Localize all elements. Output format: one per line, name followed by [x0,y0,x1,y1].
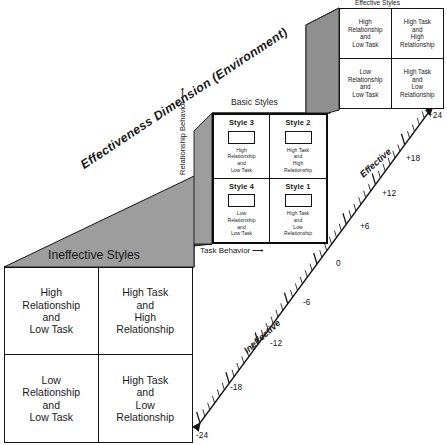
cell-line: High [134,311,156,323]
cell-line: High [40,286,62,298]
ineffective-styles-caption: Ineffective Styles [48,248,140,262]
cell-line: Relationship [284,167,312,174]
cell-line: Relationship [22,386,80,398]
cell-line: High Task [403,18,431,25]
cell-line: and [227,160,255,167]
cell-line: Low [411,83,423,90]
style-swatch [228,131,255,144]
basic-cell-style1: Style 1 High Task and Low Relationship [270,179,326,243]
cell-line: High Task [284,210,312,217]
cell-line: Low Task [29,411,73,423]
cell-line: and [360,83,371,90]
basic-styles-caption: Basic Styles [231,97,278,107]
axis-tick-label: -6 [303,297,310,307]
cell-line: Low [227,210,255,217]
axis-minor-tick [208,403,210,410]
axis-minor-tick [398,144,400,151]
task-behavior-label: Task Behavior ⟶ [200,246,263,255]
cell-line: High [411,33,424,40]
axis-tick-label: +24 [428,110,442,120]
axis-major-tick [197,412,200,423]
cell-line: and [360,33,371,40]
axis-minor-tick [325,244,327,251]
axis-minor-tick [217,390,219,397]
ineffective-cell-style2: High Task and High Relationship [99,268,193,355]
axis-minor-tick [242,356,244,363]
cell-line: High [284,160,312,167]
cell-line: Relationship [400,41,435,48]
relationship-behavior-arrow-icon: ⟶ [178,88,187,99]
axis-minor-tick [349,211,351,218]
axis-minor-tick [281,303,283,310]
style-title: Style 2 [285,119,310,128]
cell-line: and [284,217,312,224]
axis-minor-tick [334,231,336,238]
style-desc: High Relationship and Low Task [227,147,255,174]
cell-line: Low [42,374,61,386]
axis-tick-label: +18 [406,153,420,163]
effective-cell-style2: High Task and High Relationship [392,9,444,59]
cell-line: High Task [403,68,431,75]
relationship-behavior-text: Relationship Behavior [178,101,187,175]
cell-line: High Task [122,286,168,298]
cell-line: Relationship [284,230,312,237]
axis-minor-tick [237,363,239,370]
style-title: Style 4 [229,183,254,192]
cell-line: Relationship [348,26,383,33]
cell-line: High Task [284,147,312,154]
style-desc: High Task and Low Relationship [284,210,312,237]
cell-line: and [136,386,154,398]
axis-minor-tick [383,164,385,171]
effective-styles-caption: Effective Styles [355,0,400,6]
axis-major-tick [372,174,375,185]
axis-minor-tick [408,131,410,138]
axis-minor-tick [310,264,312,271]
axis-minor-tick [412,125,414,132]
cell-line: High [359,18,372,25]
cell-line: and [412,76,423,83]
basic-styles-grid: Style 3 High Relationship and Low Task S… [212,113,328,244]
axis-minor-tick [330,237,332,244]
style-desc: Low Relationship and Low Task [227,210,255,237]
axis-tick-label: +6 [360,221,369,231]
cell-line: Low [136,399,155,411]
diagram-canvas: Effective Styles High Relationship and L… [0,0,447,445]
cell-line: Relationship [116,411,174,423]
cell-line: Low Task [29,323,73,335]
axis-minor-tick [364,191,366,198]
cell-line: Low [284,224,312,231]
basic-to-effective-connector [306,8,339,113]
axis-minor-tick [291,290,293,297]
cell-line: and [42,311,60,323]
cell-line: High Task [122,374,168,386]
cell-line: and [412,26,423,33]
cell-line: Low Task [227,230,255,237]
axis-minor-tick [295,284,297,291]
axis-minor-tick [213,396,215,403]
cell-line: Relationship [348,76,383,83]
axis-major-tick [226,372,229,383]
axis-minor-tick [388,158,390,165]
axis-minor-tick [305,270,307,277]
ineffective-cell-style1: High Task and Low Relationship [99,355,193,442]
cell-line: Low Task [352,91,378,98]
effective-styles-grid: High Relationship and Low Task High Task… [339,8,444,109]
axis-major-tick [343,213,346,224]
style-title: Style 1 [285,183,310,192]
basic-cell-style3: Style 3 High Relationship and Low Task [214,115,270,179]
ineffective-cell-style3: High Relationship and Low Task [5,268,99,355]
axis-minor-tick [393,151,395,158]
task-behavior-text: Task Behavior [200,246,250,255]
axis-minor-tick [354,204,356,211]
style-desc: High Task and High Relationship [284,147,312,174]
style-title: Style 3 [229,119,254,128]
relationship-axis-strip [194,113,212,244]
axis-minor-tick [417,118,419,125]
axis-major-tick [314,253,317,264]
task-behavior-arrow-icon: ⟶ [252,246,263,255]
cell-line: Relationship [227,217,255,224]
axis-minor-tick [232,370,234,377]
cell-line: Low Task [227,167,255,174]
axis-minor-tick [276,310,278,317]
cell-line: Relationship [227,153,255,160]
